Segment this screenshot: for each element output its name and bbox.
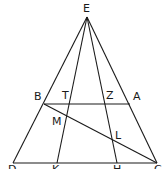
label-Z: Z [106, 89, 114, 102]
label-E: E [83, 2, 90, 15]
segment-ED [13, 17, 87, 163]
label-K: K [52, 163, 60, 169]
segment-BC [44, 104, 157, 163]
label-H: H [113, 163, 121, 169]
geometry-diagram: E B T Z A M L D K H C [0, 0, 163, 169]
label-T: T [61, 89, 69, 102]
label-C: C [154, 163, 162, 169]
label-M: M [52, 115, 62, 128]
label-D: D [8, 163, 16, 169]
label-A: A [133, 90, 141, 103]
segment-EC [87, 17, 157, 163]
label-B: B [34, 90, 42, 103]
label-L: L [115, 129, 122, 142]
